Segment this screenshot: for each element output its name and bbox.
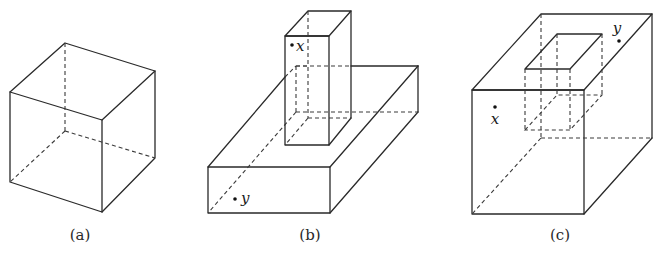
panel-a-label: (a) (70, 226, 91, 244)
panel-c-cube-with-hole: x y (c) (472, 14, 652, 244)
point-y-dot (233, 197, 237, 201)
point-y-dot (617, 39, 621, 43)
panel-b-label: (b) (299, 226, 320, 244)
point-x-dot (493, 105, 497, 109)
point-x-label: x (491, 110, 500, 128)
point-x-label: x (296, 37, 305, 55)
panel-b-tower-on-slab: x y (b) (208, 11, 418, 244)
figure-canvas: (a) x y (b) (0, 0, 656, 258)
panel-c-label: (c) (550, 226, 570, 244)
panel-a-cube: (a) (10, 43, 155, 244)
point-y-label: y (612, 19, 622, 37)
point-y-label: y (240, 189, 250, 207)
point-x-dot (290, 43, 294, 47)
